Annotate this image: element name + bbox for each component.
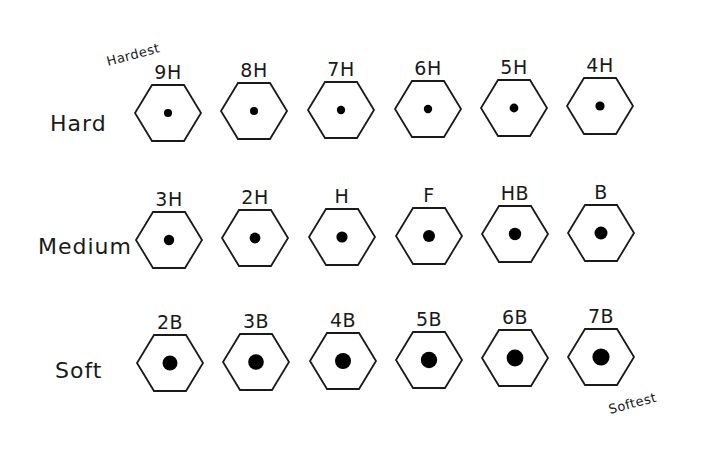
grade-label: 6B [502,306,528,328]
grade-label: 2H [241,186,268,208]
lead-core-icon [423,230,435,242]
row-soft: Soft2B3B4B5B6B7B [55,305,634,391]
pencil-grade-2h: 2H [222,186,288,266]
lead-core-icon [164,109,172,117]
grade-label: HB [501,182,529,204]
grade-label: H [335,185,350,207]
lead-core-icon [507,350,524,367]
lead-core-icon [510,104,519,113]
lead-core-icon [163,356,178,371]
lead-core-icon [335,353,351,369]
grade-label: 4H [586,54,613,76]
pencil-grade-6h: 6H [395,57,461,137]
lead-core-icon [164,235,174,245]
pencil-grade-b: B [568,181,634,261]
grade-label: 6H [414,57,441,79]
pencil-grade-3h: 3H [136,188,202,268]
pencil-grade-h: H [309,185,375,265]
row-label: Hard [50,111,107,136]
grade-label: 5B [416,308,442,330]
lead-core-icon [250,233,261,244]
softest-annotation: Softest [607,390,658,417]
lead-core-icon [592,348,609,365]
lead-core-icon [509,228,521,240]
pencil-grade-9h: 9H [135,61,201,141]
grade-label: 9H [154,61,181,83]
pencil-grade-2b: 2B [137,311,203,391]
lead-core-icon [421,352,437,368]
lead-core-icon [248,354,264,370]
lead-core-icon [424,105,432,113]
grade-label: 3H [155,188,182,210]
grade-label: 4B [330,309,356,331]
hardness-rows: Hard9H8H7H6H5H4HMedium3H2HHFHBBSoft2B3B4… [38,54,634,391]
grade-label: 7H [327,58,354,80]
lead-core-icon [336,231,347,242]
pencil-grade-4h: 4H [567,54,633,134]
hardness-diagram: Hardest Softest Hard9H8H7H6H5H4HMedium3H… [0,0,718,449]
grade-label: 7B [588,305,614,327]
grade-label: 3B [243,310,269,332]
row-medium: Medium3H2HHFHBB [38,181,634,268]
row-hard: Hard9H8H7H6H5H4H [50,54,633,141]
pencil-grade-4b: 4B [310,309,376,389]
row-label: Soft [55,358,102,383]
lead-core-icon [250,107,258,115]
pencil-grade-7h: 7H [308,58,374,138]
grade-label: 8H [240,59,267,81]
diagram-canvas: Hardest Softest Hard9H8H7H6H5H4HMedium3H… [0,0,718,449]
pencil-grade-f: F [396,184,462,264]
lead-core-icon [595,101,604,110]
pencil-grade-6b: 6B [482,306,548,386]
grade-label: F [423,184,434,206]
hardest-annotation: Hardest [105,40,162,69]
pencil-grade-7b: 7B [568,305,634,385]
grade-label: 5H [500,56,527,78]
lead-core-icon [337,106,345,114]
row-label: Medium [38,234,132,259]
pencil-grade-3b: 3B [223,310,289,390]
pencil-grade-hb: HB [482,182,548,262]
grade-label: 2B [157,311,183,333]
lead-core-icon [595,227,608,240]
grade-label: B [594,181,608,203]
pencil-grade-5b: 5B [396,308,462,388]
pencil-grade-8h: 8H [221,59,287,139]
pencil-grade-5h: 5H [481,56,547,136]
